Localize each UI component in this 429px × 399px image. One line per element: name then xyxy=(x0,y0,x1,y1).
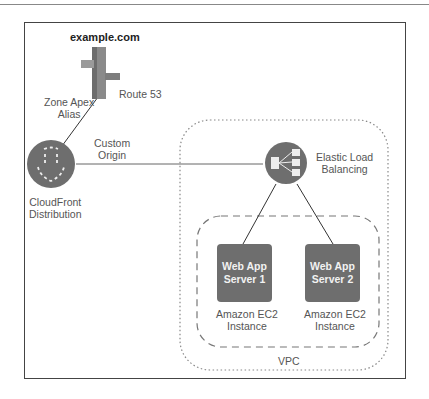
caption-line: Amazon EC2 xyxy=(216,308,278,320)
server-label-line: Server 1 xyxy=(222,273,267,286)
cloudfront-label: CloudFront Distribution xyxy=(29,196,82,220)
load-balancer-icon xyxy=(265,142,307,184)
edge-elb-server1 xyxy=(243,184,276,244)
vpc-label: VPC xyxy=(278,355,300,367)
caption-line: Instance xyxy=(304,320,366,332)
domain-title: example.com xyxy=(70,31,140,43)
cloudfront-icon xyxy=(27,140,75,188)
node-label-line: Balancing xyxy=(316,163,373,175)
node-label-line: CloudFront xyxy=(29,196,82,208)
edge-label-line: Zone Apex xyxy=(44,96,94,108)
web-app-server-1[interactable]: Web App Server 1 xyxy=(217,244,272,302)
node-label-line: Elastic Load xyxy=(316,151,373,163)
edge-label-line: Origin xyxy=(94,149,130,161)
edge-label-line: Custom xyxy=(94,137,130,149)
server-label-line: Server 2 xyxy=(310,273,355,286)
server1-caption: Amazon EC2 Instance xyxy=(216,308,278,332)
caption-line: Amazon EC2 xyxy=(304,308,366,320)
edge-label-zone-apex: Zone Apex Alias xyxy=(44,96,94,120)
web-app-server-2[interactable]: Web App Server 2 xyxy=(305,244,360,302)
elb-label: Elastic Load Balancing xyxy=(316,151,373,175)
node-label-line: Distribution xyxy=(29,208,82,220)
route53-signpost-icon xyxy=(81,47,120,99)
server2-caption: Amazon EC2 Instance xyxy=(304,308,366,332)
route53-label: Route 53 xyxy=(119,88,162,100)
edge-label-custom-origin: Custom Origin xyxy=(94,137,130,161)
server-label-line: Web App xyxy=(222,260,267,273)
edge-elb-server2 xyxy=(297,184,333,244)
caption-line: Instance xyxy=(216,320,278,332)
server-label-line: Web App xyxy=(310,260,355,273)
edge-label-line: Alias xyxy=(44,108,94,120)
